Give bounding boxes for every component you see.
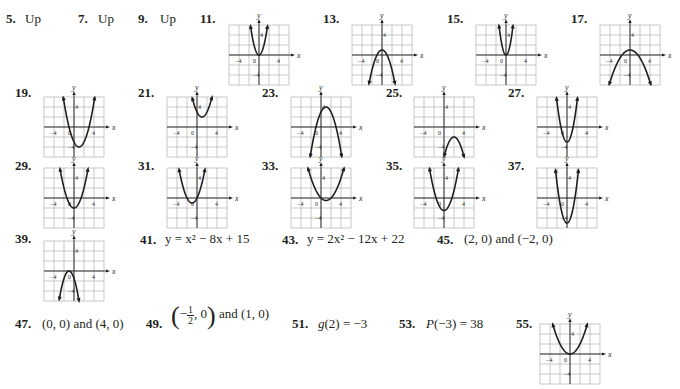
svg-text:y: y bbox=[318, 83, 323, 92]
problem-number: 21. bbox=[138, 85, 154, 101]
answer-text: (0, 0) and (4, 0) bbox=[42, 316, 124, 332]
svg-text:−4: −4 bbox=[482, 58, 488, 64]
problem-number: 51. bbox=[292, 316, 308, 332]
svg-text:4: 4 bbox=[92, 274, 95, 280]
svg-text:4: 4 bbox=[198, 175, 201, 181]
problem-number: 9. bbox=[138, 11, 148, 27]
svg-text:−4: −4 bbox=[297, 201, 303, 207]
svg-text:−4: −4 bbox=[235, 58, 241, 64]
problem-number: 43. bbox=[282, 232, 298, 248]
svg-text:x: x bbox=[481, 123, 486, 132]
svg-text:y: y bbox=[441, 83, 446, 92]
svg-text:0: 0 bbox=[315, 201, 318, 207]
svg-text:y: y bbox=[194, 83, 199, 92]
svg-text:4: 4 bbox=[215, 201, 218, 207]
svg-text:−4: −4 bbox=[376, 72, 382, 78]
parabola-graph: xy−4404−4 bbox=[404, 87, 490, 163]
svg-text:y: y bbox=[567, 310, 572, 319]
parabola-graph: xy−4404−4 bbox=[466, 15, 552, 91]
svg-text:y: y bbox=[318, 154, 323, 163]
svg-text:−4: −4 bbox=[420, 130, 426, 136]
problem-number: 19. bbox=[15, 85, 31, 101]
svg-text:−4: −4 bbox=[173, 201, 179, 207]
svg-text:4: 4 bbox=[571, 331, 574, 337]
svg-text:−4: −4 bbox=[68, 288, 74, 294]
svg-text:−4: −4 bbox=[315, 215, 321, 221]
svg-text:4: 4 bbox=[585, 130, 588, 136]
svg-text:x: x bbox=[358, 194, 363, 203]
parabola-graph: xy−4404−4 bbox=[590, 15, 676, 91]
svg-text:y: y bbox=[564, 154, 569, 163]
svg-text:−4: −4 bbox=[564, 371, 570, 377]
problem-number: 39. bbox=[15, 231, 31, 247]
problem-number: 13. bbox=[323, 11, 339, 27]
svg-text:4: 4 bbox=[260, 32, 263, 38]
svg-text:−4: −4 bbox=[50, 274, 56, 280]
svg-text:0: 0 bbox=[561, 201, 564, 207]
svg-text:−4: −4 bbox=[624, 72, 630, 78]
problem-number: 29. bbox=[15, 158, 31, 174]
svg-text:x: x bbox=[481, 194, 486, 203]
svg-text:−4: −4 bbox=[173, 130, 179, 136]
svg-text:4: 4 bbox=[400, 58, 403, 64]
answer-text: Up bbox=[25, 11, 41, 27]
svg-text:−4: −4 bbox=[438, 215, 444, 221]
svg-text:x: x bbox=[234, 123, 239, 132]
answer-fraction-point: (−12, 0) and (1, 0) bbox=[171, 305, 269, 326]
problem-number: 35. bbox=[386, 158, 402, 174]
svg-text:−4: −4 bbox=[546, 357, 552, 363]
svg-text:4: 4 bbox=[568, 104, 571, 110]
minus-sign: − bbox=[180, 306, 187, 321]
svg-text:x: x bbox=[667, 51, 672, 60]
svg-text:x: x bbox=[296, 51, 301, 60]
problem-number: 37. bbox=[508, 158, 524, 174]
svg-text:4: 4 bbox=[462, 130, 465, 136]
svg-text:y: y bbox=[71, 83, 76, 92]
problem-number: 49. bbox=[146, 316, 162, 332]
svg-text:y: y bbox=[503, 11, 508, 20]
parabola-graph: xy−4404−4 bbox=[34, 87, 120, 163]
svg-text:x: x bbox=[358, 123, 363, 132]
svg-text:4: 4 bbox=[445, 175, 448, 181]
svg-text:−4: −4 bbox=[68, 215, 74, 221]
svg-text:0: 0 bbox=[376, 58, 379, 64]
svg-text:4: 4 bbox=[215, 130, 218, 136]
problem-number: 53. bbox=[399, 316, 415, 332]
parabola-graph: xy−4404−4 bbox=[527, 87, 613, 163]
svg-text:−4: −4 bbox=[561, 144, 567, 150]
svg-text:x: x bbox=[607, 350, 612, 359]
svg-text:4: 4 bbox=[339, 130, 342, 136]
svg-text:y: y bbox=[71, 154, 76, 163]
problem-number: 15. bbox=[447, 11, 463, 27]
svg-text:0: 0 bbox=[68, 274, 71, 280]
problem-number: 31. bbox=[138, 158, 154, 174]
svg-text:x: x bbox=[111, 267, 116, 276]
problem-number: 7. bbox=[78, 11, 88, 27]
svg-text:4: 4 bbox=[524, 58, 527, 64]
parabola-graph: xy−4404−4 bbox=[530, 314, 616, 389]
problem-number: 45. bbox=[437, 232, 453, 248]
parabola-graph: xy−4404−4 bbox=[34, 158, 120, 234]
svg-text:0: 0 bbox=[191, 130, 194, 136]
svg-text:4: 4 bbox=[198, 104, 201, 110]
svg-text:0: 0 bbox=[438, 130, 441, 136]
svg-text:x: x bbox=[111, 194, 116, 203]
svg-text:y: y bbox=[256, 11, 261, 20]
svg-text:y: y bbox=[564, 83, 569, 92]
parabola-graph: xy−4404−4 bbox=[281, 87, 367, 163]
svg-text:−4: −4 bbox=[191, 144, 197, 150]
svg-text:y: y bbox=[194, 154, 199, 163]
parabola-graph: xy−4404−4 bbox=[157, 158, 243, 234]
svg-text:y: y bbox=[379, 11, 384, 20]
parabola-graph: xy−4404−4 bbox=[34, 231, 120, 307]
svg-text:−4: −4 bbox=[420, 201, 426, 207]
svg-text:4: 4 bbox=[445, 104, 448, 110]
svg-text:−4: −4 bbox=[543, 201, 549, 207]
answer-equation: y = 2x² − 12x + 22 bbox=[307, 231, 404, 247]
svg-text:−4: −4 bbox=[438, 144, 444, 150]
svg-text:4: 4 bbox=[585, 201, 588, 207]
svg-text:y: y bbox=[627, 11, 632, 20]
problem-number: 41. bbox=[140, 232, 156, 248]
parabola-graph: xy−4404−4 bbox=[219, 15, 305, 91]
svg-text:4: 4 bbox=[92, 201, 95, 207]
